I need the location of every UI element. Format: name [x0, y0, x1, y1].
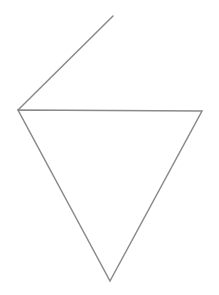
line-drawing-svg — [0, 0, 219, 295]
figure-canvas — [0, 0, 219, 295]
inverted-triangle-shape — [18, 110, 202, 281]
upper-ray-shape — [18, 16, 113, 110]
